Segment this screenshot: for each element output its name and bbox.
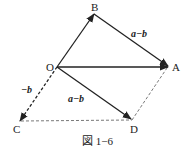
vector-ba — [94, 14, 168, 66]
vector-ob — [57, 14, 94, 67]
point-label-o: O — [46, 61, 54, 73]
point-label-b: B — [91, 1, 98, 13]
vector-label-od: a−b — [68, 93, 84, 104]
segment-da — [132, 68, 167, 120]
figure-caption: 図 1−6 — [82, 135, 113, 147]
vector-label-oc: −b — [21, 84, 32, 95]
point-label-d: D — [130, 123, 138, 135]
point-label-a: A — [172, 61, 180, 73]
segment-cd — [21, 120, 132, 121]
vector-label-ba: a−b — [131, 28, 147, 39]
point-label-c: C — [13, 123, 20, 135]
vector-diagram: O B A C D a−b a−b −b 図 1−6 — [0, 0, 187, 156]
